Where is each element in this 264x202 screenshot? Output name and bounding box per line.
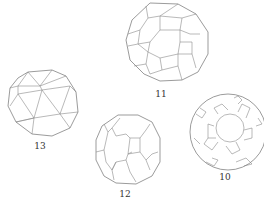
polyhedron-11: [126, 3, 208, 81]
polyhedron-13: [8, 70, 78, 136]
label-11: 11: [155, 89, 166, 99]
label-10: 10: [219, 172, 230, 182]
polyhedron-10: [190, 94, 264, 170]
label-12: 12: [119, 189, 130, 199]
label-13: 13: [34, 141, 45, 151]
polyhedron-12: [96, 115, 160, 184]
